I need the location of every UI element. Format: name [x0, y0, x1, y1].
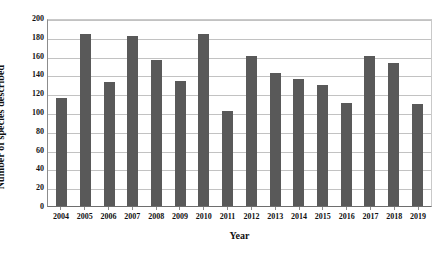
x-axis-title: Year — [47, 230, 432, 241]
bar-slot — [168, 20, 192, 206]
bars-layer — [48, 20, 431, 206]
x-tick-label: 2014 — [287, 211, 311, 225]
y-tick-label: 0 — [18, 203, 44, 211]
bar-slot — [287, 20, 311, 206]
bar-slot — [216, 20, 240, 206]
bar — [104, 82, 115, 206]
x-axis-tick-labels: 2004200520062007200820092010201120122013… — [47, 211, 432, 225]
bar — [293, 79, 304, 206]
bar-slot — [145, 20, 169, 206]
x-tick-label: 2007 — [120, 211, 144, 225]
x-tick-mark — [108, 207, 109, 210]
bar — [412, 104, 423, 206]
x-tick-mark — [370, 207, 371, 210]
bar-slot — [50, 20, 74, 206]
bar — [80, 34, 91, 206]
x-tick-label: 2006 — [97, 211, 121, 225]
bar-slot — [121, 20, 145, 206]
x-tick-mark — [60, 207, 61, 210]
x-tick-label: 2011 — [216, 211, 240, 225]
x-tick-label: 2009 — [168, 211, 192, 225]
y-axis-tick-labels: 200180160140120100806040200 — [18, 19, 44, 207]
bar — [222, 111, 233, 206]
x-tick-mark — [299, 207, 300, 210]
bar — [317, 85, 328, 206]
y-tick-label: 180 — [18, 34, 44, 42]
bar — [198, 34, 209, 206]
bar — [127, 36, 138, 206]
bar-slot — [240, 20, 264, 206]
x-tick-mark — [251, 207, 252, 210]
x-tick-label: 2018 — [382, 211, 406, 225]
bar-slot — [405, 20, 429, 206]
bar-slot — [192, 20, 216, 206]
x-tick-label: 2010 — [192, 211, 216, 225]
y-tick-label: 140 — [18, 71, 44, 79]
y-tick-label: 160 — [18, 53, 44, 61]
y-tick-label: 20 — [18, 184, 44, 192]
bar-chart: Number of species described 200180160140… — [0, 0, 440, 254]
y-tick-label: 80 — [18, 128, 44, 136]
y-tick-label: 40 — [18, 165, 44, 173]
y-tick-label: 60 — [18, 147, 44, 155]
bar — [270, 73, 281, 206]
x-tick-label: 2019 — [406, 211, 430, 225]
bar-slot — [334, 20, 358, 206]
x-tick-mark — [322, 207, 323, 210]
bar — [341, 103, 352, 206]
y-tick-label: 120 — [18, 90, 44, 98]
x-tick-label: 2004 — [49, 211, 73, 225]
bar-slot — [263, 20, 287, 206]
x-tick-label: 2015 — [311, 211, 335, 225]
bar-slot — [382, 20, 406, 206]
bar-slot — [97, 20, 121, 206]
x-tick-label: 2016 — [335, 211, 359, 225]
y-tick-label: 200 — [18, 15, 44, 23]
x-tick-label: 2008 — [144, 211, 168, 225]
bar — [56, 98, 67, 206]
bar-slot — [74, 20, 98, 206]
x-tick-mark — [132, 207, 133, 210]
x-tick-label: 2005 — [73, 211, 97, 225]
y-tick-label: 100 — [18, 109, 44, 117]
x-tick-mark — [156, 207, 157, 210]
x-tick-mark — [346, 207, 347, 210]
x-tick-mark — [275, 207, 276, 210]
x-tick-label: 2013 — [263, 211, 287, 225]
bar — [388, 63, 399, 206]
bar — [364, 56, 375, 206]
bar — [246, 56, 257, 206]
bar — [151, 60, 162, 206]
x-tick-mark — [227, 207, 228, 210]
bar-slot — [311, 20, 335, 206]
x-tick-label: 2012 — [240, 211, 264, 225]
x-tick-label: 2017 — [359, 211, 383, 225]
x-tick-mark — [84, 207, 85, 210]
x-tick-mark — [179, 207, 180, 210]
x-tick-mark — [418, 207, 419, 210]
plot-area — [47, 19, 432, 207]
bar — [175, 81, 186, 206]
x-tick-mark — [394, 207, 395, 210]
x-tick-mark — [203, 207, 204, 210]
bar-slot — [358, 20, 382, 206]
